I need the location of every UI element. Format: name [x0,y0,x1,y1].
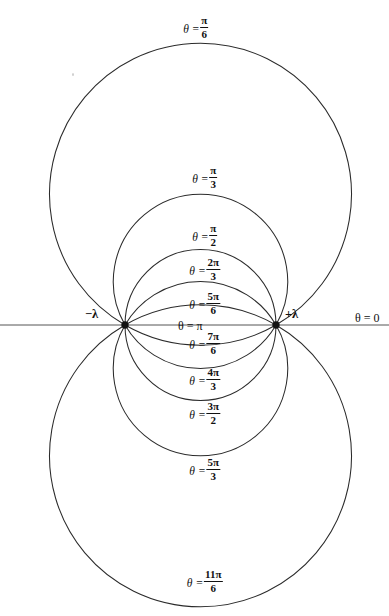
fraction-7pi-over-6: 7π6 [206,331,220,356]
label-prefix-theta-2pi-over-3: θ = [189,265,206,277]
fraction-numerator: π [209,165,217,178]
fraction-5pi-over-6: 5π6 [206,291,220,316]
fraction-denominator: 6 [204,582,223,594]
label-theta-5pi-over-6: θ =5π6 [189,292,220,317]
fraction-numerator: π [209,223,217,236]
fraction-numerator: 3π [206,401,220,414]
fraction-numerator: π [200,15,208,28]
fraction-numerator: 5π [206,291,220,304]
fraction-denominator: 3 [206,270,220,282]
focus-point-left [122,322,129,329]
fraction-denominator: 3 [206,470,220,482]
fraction-pi-over-3: π3 [209,165,217,190]
label-theta-3pi-over-2: θ =3π2 [189,402,220,427]
fraction-numerator: 4π [206,367,220,380]
focus-point-right [273,322,280,329]
label-prefix-theta-5pi-over-3: θ = [189,465,206,477]
label-theta-11pi-over-6: θ =11π6 [187,570,223,595]
label-prefix-theta-11pi-over-6: θ = [187,577,204,589]
label-theta-4pi-over-3: θ =4π3 [189,368,220,393]
fraction-11pi-over-6: 11π6 [204,569,223,594]
label-prefix-theta-5pi-over-6: θ = [189,299,206,311]
label-prefix-theta-4pi-over-3: θ = [189,375,206,387]
fraction-denominator: 2 [209,236,217,248]
fraction-denominator: 6 [200,28,208,40]
label-prefix-theta-pi-over-2: θ = [192,231,209,243]
fraction-denominator: 3 [206,380,220,392]
fraction-pi-over-6: π6 [200,15,208,40]
label-theta-5pi-over-3: θ =5π3 [189,458,220,483]
label-prefix-theta-pi-over-3: θ = [192,173,209,185]
label-theta-7pi-over-6: θ =7π6 [189,332,220,357]
label-theta-pi-over-2: θ =π2 [192,224,218,249]
fraction-pi-over-2: π2 [209,223,217,248]
fraction-numerator: 11π [204,569,223,582]
fraction-numerator: 2π [206,257,220,270]
fraction-denominator: 2 [206,414,220,426]
fraction-denominator: 3 [209,178,217,190]
fraction-numerator: 5π [206,457,220,470]
fraction-numerator: 7π [206,331,220,344]
fraction-4pi-over-3: 4π3 [206,367,220,392]
fraction-3pi-over-2: 3π2 [206,401,220,426]
fraction-denominator: 6 [206,304,220,316]
label-theta-pi-over-6: θ =π6 [183,16,209,41]
label-prefix-theta-pi-over-6: θ = [183,23,200,35]
fraction-2pi-over-3: 2π3 [206,257,220,282]
paper-speck [72,73,74,76]
axis-label-plus-lambda: +λ [285,307,298,322]
fraction-5pi-over-3: 5π3 [206,457,220,482]
axis-label-minus-lambda: −λ [85,307,98,322]
fraction-denominator: 6 [206,344,220,356]
label-theta-pi-over-3: θ =π3 [192,166,218,191]
axis-label-theta-zero: θ = 0 [355,311,380,326]
label-theta-2pi-over-3: θ =2π3 [189,258,220,283]
label-prefix-theta-7pi-over-6: θ = [189,339,206,351]
label-prefix-theta-3pi-over-2: θ = [189,409,206,421]
